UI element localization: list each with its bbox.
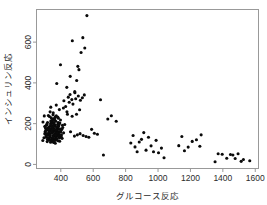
data-point xyxy=(58,108,61,111)
data-point xyxy=(234,157,237,160)
data-point xyxy=(138,140,141,143)
data-point xyxy=(67,96,70,99)
x-tick-label: 400 xyxy=(54,173,68,183)
data-point xyxy=(55,137,58,140)
x-tick-label: 1000 xyxy=(149,173,168,183)
data-point xyxy=(195,138,198,141)
data-point xyxy=(177,144,180,147)
data-point xyxy=(140,138,143,141)
data-point xyxy=(52,111,55,114)
data-point xyxy=(231,154,234,157)
plot-frame xyxy=(37,10,259,169)
data-point xyxy=(106,117,109,120)
data-point xyxy=(155,139,158,142)
data-point xyxy=(50,116,53,119)
data-point xyxy=(58,123,61,126)
y-tick-label: 400 xyxy=(24,76,34,90)
data-point xyxy=(64,105,67,108)
data-point xyxy=(77,68,80,71)
data-point xyxy=(76,65,79,68)
data-point xyxy=(71,115,74,118)
y-axis-title: インシュリン反応 xyxy=(3,53,13,125)
data-point xyxy=(54,133,57,136)
data-point xyxy=(217,152,220,155)
x-tick-label: 800 xyxy=(119,173,133,183)
data-point xyxy=(71,103,74,106)
data-point xyxy=(87,136,90,139)
data-point xyxy=(50,123,53,126)
data-point xyxy=(59,130,62,133)
data-point xyxy=(56,115,59,118)
data-point xyxy=(248,159,251,162)
data-point xyxy=(83,46,86,49)
y-tick-label: 600 xyxy=(24,35,34,49)
data-point xyxy=(90,128,93,131)
data-point xyxy=(221,153,224,156)
data-point xyxy=(71,39,74,42)
data-point xyxy=(99,98,102,101)
plot-frame-group xyxy=(37,10,259,169)
data-point xyxy=(160,147,163,150)
data-point xyxy=(81,36,84,39)
data-point xyxy=(53,139,56,142)
data-point xyxy=(70,98,73,101)
data-point xyxy=(50,130,53,133)
data-point xyxy=(157,151,160,154)
data-point xyxy=(225,157,228,160)
data-point xyxy=(102,154,105,157)
data-point xyxy=(79,132,82,135)
data-point xyxy=(43,114,46,117)
data-point xyxy=(55,82,58,85)
x-tick-label: 1200 xyxy=(181,173,200,183)
data-point xyxy=(41,139,44,142)
data-point xyxy=(136,150,139,153)
data-point xyxy=(237,152,240,155)
x-axis-title: グルコース反応 xyxy=(116,191,179,201)
data-point xyxy=(55,125,58,128)
y-tick-label: 0 xyxy=(24,162,34,167)
y-tick-label: 200 xyxy=(24,116,34,130)
data-point xyxy=(162,156,165,159)
data-point xyxy=(49,134,52,137)
data-point xyxy=(77,94,80,97)
data-point xyxy=(48,128,51,131)
data-point xyxy=(75,113,78,116)
data-point xyxy=(93,132,96,135)
plot-canvas: 4006008001000120014001600 0200400600 グルコ… xyxy=(0,0,267,205)
data-point xyxy=(79,99,82,102)
data-point xyxy=(46,140,49,143)
data-point xyxy=(68,93,71,96)
data-point xyxy=(49,141,52,144)
data-points-group xyxy=(41,14,251,163)
data-point xyxy=(54,128,57,131)
data-point xyxy=(214,160,217,163)
x-axis-ticks: 4006008001000120014001600 xyxy=(54,169,265,184)
data-point xyxy=(142,131,145,134)
x-tick-label: 1400 xyxy=(213,173,232,183)
data-point xyxy=(133,145,136,148)
data-point xyxy=(62,99,65,102)
data-point xyxy=(68,101,71,104)
x-tick-label: 1600 xyxy=(246,173,265,183)
data-point xyxy=(74,97,77,100)
data-point xyxy=(110,114,113,117)
data-point xyxy=(198,145,201,148)
data-point xyxy=(82,134,85,137)
data-point xyxy=(49,106,52,109)
data-point xyxy=(45,132,48,135)
data-point xyxy=(73,90,76,93)
data-point xyxy=(47,137,50,140)
data-point xyxy=(73,135,76,138)
data-point xyxy=(191,140,194,143)
data-point xyxy=(41,120,44,123)
data-point xyxy=(129,141,132,144)
data-point xyxy=(69,75,72,78)
data-point xyxy=(152,150,155,153)
data-point xyxy=(80,51,83,54)
data-point xyxy=(78,108,81,111)
x-tick-label: 600 xyxy=(86,173,100,183)
data-point xyxy=(66,113,69,116)
data-point xyxy=(44,125,47,128)
data-point xyxy=(75,79,78,82)
data-point xyxy=(51,136,54,139)
